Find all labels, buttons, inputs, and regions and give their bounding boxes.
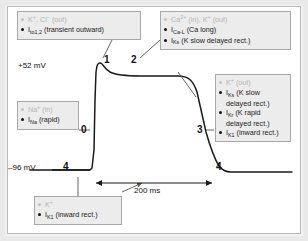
phase-marker-3: 3: [197, 124, 203, 135]
phase-marker-4-right: 4: [216, 161, 222, 172]
bullet-icon: [219, 91, 222, 94]
callout-line: IK1 (inward rect.): [219, 128, 286, 138]
bullet-icon: [219, 81, 222, 84]
callout-line-label: INa (rapid): [28, 115, 60, 124]
callout-line: ICa-L (Ca long): [164, 25, 286, 35]
bullet-icon: [21, 108, 24, 111]
callout-line-label: IKr (K rapid delayed rect.): [226, 108, 270, 127]
bullet-icon: [21, 18, 24, 21]
phase-3-callout: K+ (out)IKs (K slow delayed rect.)IKr (K…: [215, 74, 291, 142]
callout-line: IKr (K rapid delayed rect.): [219, 108, 286, 128]
callout-line: IKs (K slow delayed rect.): [219, 88, 286, 108]
bullet-icon: [164, 18, 167, 21]
bullet-icon: [38, 213, 41, 216]
max-voltage-label: +52 mV: [18, 61, 46, 70]
bullet-icon: [164, 39, 167, 42]
bullet-icon: [21, 28, 24, 31]
callout-line-label: Ca2+ (in), K+ (out): [171, 15, 227, 24]
callout-line: Ca2+ (in), K+ (out): [164, 15, 286, 25]
callout-line: IKs (K slow delayed rect.): [164, 36, 286, 46]
min-voltage-label: –96 mV: [8, 163, 36, 172]
bullet-icon: [219, 131, 222, 134]
callout-line-label: K+: [45, 200, 53, 209]
callout-line-label: IK1 (inward rect.): [226, 128, 279, 137]
time-scale-label: 200 ms: [134, 186, 160, 195]
callout-line-label: ICa-L (Ca long): [171, 25, 216, 34]
callout-line: INa (rapid): [21, 115, 74, 125]
callout-line-label: IKs (K slow delayed rect.): [226, 88, 270, 107]
bullet-icon: [164, 28, 167, 31]
callout-line-label: IK1 (inward rect.): [45, 210, 98, 219]
phase-marker-1: 1: [104, 54, 110, 65]
bullet-icon: [38, 203, 41, 206]
callout-line: Ito1,2 (transient outward): [21, 25, 136, 35]
phase-marker-4-left: 4: [63, 161, 69, 172]
callout-line: K+: [38, 200, 117, 210]
callout-line: K+, Cl− (out): [21, 15, 136, 25]
action-potential-figure: +52 mV –96 mV 200 ms 0 1 2 3 4 4 K+, Cl−…: [0, 0, 308, 241]
bullet-icon: [219, 111, 222, 114]
callout-line-label: Na+ (in): [28, 105, 53, 114]
callout-line: K+ (out): [219, 78, 286, 88]
callout-line-label: K+, Cl− (out): [28, 15, 67, 24]
leader-line-phase-2: [140, 40, 160, 58]
callout-line: IK1 (inward rect.): [38, 210, 117, 220]
phase-marker-2: 2: [131, 54, 137, 65]
phase-marker-0: 0: [81, 124, 87, 135]
callout-line-label: K+ (out): [226, 78, 251, 87]
bullet-icon: [21, 118, 24, 121]
phase-2-callout: Ca2+ (in), K+ (out)ICa-L (Ca long)IKs (K…: [160, 11, 291, 50]
callout-line-label: IKs (K slow delayed rect.): [171, 36, 250, 45]
callout-line-label: Ito1,2 (transient outward): [28, 25, 104, 34]
phase-4-callout: K+IK1 (inward rect.): [34, 196, 122, 225]
phase-1-callout: K+, Cl− (out)Ito1,2 (transient outward): [17, 11, 141, 40]
phase-0-callout: Na+ (in)INa (rapid): [17, 101, 79, 130]
callout-line: Na+ (in): [21, 105, 74, 115]
